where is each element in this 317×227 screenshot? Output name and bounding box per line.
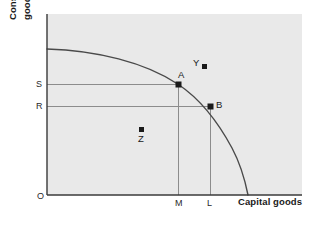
x-tick-label-m: M xyxy=(175,198,183,208)
data-point-label-a: A xyxy=(178,69,184,80)
ppf-chart-figure: Consumer goods Capital goods O S R M L A… xyxy=(0,0,317,227)
origin-label: O xyxy=(37,191,44,201)
y-axis-label-line-2: goods xyxy=(21,0,33,20)
data-point-y-marker xyxy=(202,64,207,69)
y-axis-label: Consumer goods xyxy=(0,8,46,108)
data-point-label-b: B xyxy=(216,99,222,110)
y-axis-label-line-1: Consumer xyxy=(7,0,19,20)
x-tick-label-l: L xyxy=(207,198,212,208)
plot-area-background xyxy=(47,14,302,195)
data-point-a-marker xyxy=(176,82,182,88)
data-point-b-marker xyxy=(208,104,214,110)
y-tick-label-r: R xyxy=(36,101,43,111)
y-tick-label-s: S xyxy=(36,79,42,89)
data-point-label-z: Z xyxy=(138,133,144,144)
ppf-chart-canvas xyxy=(0,0,317,227)
data-point-label-y: Y xyxy=(193,57,199,68)
x-axis-label: Capital goods xyxy=(238,196,302,207)
data-point-z-marker xyxy=(139,127,144,132)
